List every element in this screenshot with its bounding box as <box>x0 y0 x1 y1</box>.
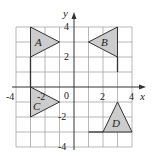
y-tick-neg2: -2 <box>58 111 66 122</box>
x-tick-4: 4 <box>129 91 134 102</box>
label-d: D <box>111 117 120 129</box>
y-axis-arrow-icon <box>72 12 77 19</box>
y-tick-4: 4 <box>64 21 69 32</box>
x-axis-arrow-icon <box>139 85 146 90</box>
label-c: C <box>33 100 41 112</box>
x-tick-neg4: -4 <box>6 91 14 102</box>
label-b: B <box>101 36 108 48</box>
y-tick-2: 2 <box>64 51 69 62</box>
origin-label: 0 <box>64 90 69 101</box>
label-a: A <box>34 36 42 48</box>
x-axis-label: x <box>139 90 145 102</box>
y-axis-label: y <box>62 7 68 19</box>
y-tick-neg4: -4 <box>58 141 66 152</box>
x-tick-2: 2 <box>100 91 105 102</box>
coordinate-grid-diagram: x y 0 -4 -2 2 4 4 2 -2 -4 A B C D <box>0 0 154 156</box>
